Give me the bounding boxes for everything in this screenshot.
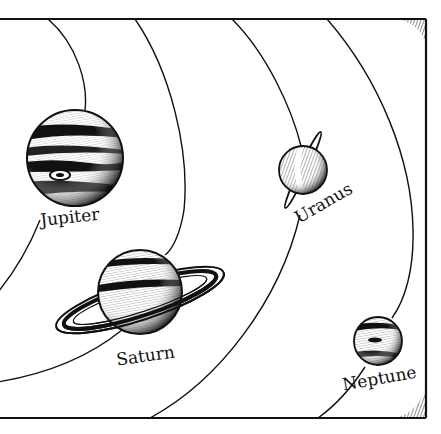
solar-system-diagram: Jupiter Saturn bbox=[0, 0, 441, 434]
label-neptune: Neptune bbox=[341, 362, 418, 395]
label-jupiter: Jupiter bbox=[37, 204, 101, 230]
label-saturn: Saturn bbox=[115, 342, 176, 370]
planet-neptune bbox=[354, 317, 402, 365]
planet-jupiter bbox=[25, 110, 125, 210]
planet-saturn bbox=[50, 250, 230, 346]
